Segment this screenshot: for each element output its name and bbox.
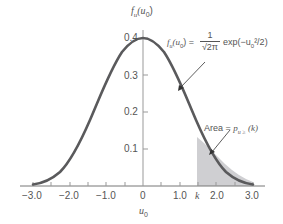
y-tick-0.2: 0.2 (124, 107, 138, 117)
x-axis-label: u0 (139, 206, 148, 218)
x-tick-1: 1.0 (173, 191, 187, 201)
k-marker-label: k (195, 191, 199, 201)
x-tick-neg2: −2.0 (59, 191, 79, 201)
formula-arrow (180, 62, 205, 88)
area-k: (k) (248, 123, 258, 133)
formula-arg: (u (173, 37, 181, 47)
formula-exp-text: exp(−u (223, 37, 251, 47)
area-sub: u ≥ (238, 129, 246, 135)
y-label-close: ) (150, 5, 153, 16)
formula-exp-rest: ²/2) (254, 37, 268, 47)
x-tick-2: 2.0 (210, 191, 224, 201)
x-tick-neg1: −1.0 (96, 191, 116, 201)
y-axis-label: fu(u0) (131, 6, 153, 19)
x-tick-3: 3.0 (245, 191, 259, 201)
shaded-tail-area (197, 137, 253, 186)
y-ticks (143, 38, 148, 149)
x-tick-0: 0 (140, 191, 146, 201)
y-tick-0.4: 0.4 (124, 33, 138, 43)
x-tick-neg3: −3.0 (22, 191, 42, 201)
y-tick-0.3: 0.3 (124, 71, 138, 81)
formula-annotation: fu(u0) = (167, 38, 194, 49)
y-label-arg: (u (137, 5, 145, 16)
y-tick-0.1: 0.1 (124, 144, 138, 154)
formula-exp: exp(−u0²/2) (223, 38, 268, 49)
area-annotation: Area = pu ≥ (k) (204, 124, 258, 135)
formula-fraction: 1 √2π (200, 31, 220, 52)
formula-denominator: √2π (200, 42, 220, 52)
area-text: Area = (204, 123, 233, 133)
formula-equals: ) = (183, 37, 194, 47)
x-label-sub: 0 (144, 211, 148, 218)
formula-numerator: 1 (200, 31, 220, 42)
